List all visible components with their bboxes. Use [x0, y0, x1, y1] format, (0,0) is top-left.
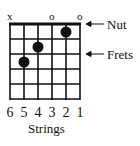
dot-string4-fret2: [33, 42, 44, 53]
dot-string5-fret3: [19, 57, 30, 68]
finger-dots: [19, 27, 72, 68]
string6-muted-marker: x: [7, 11, 13, 22]
string1-open-marker: o: [77, 11, 83, 22]
frets-label: Frets: [107, 48, 133, 61]
frets: [10, 39, 80, 99]
string-number-2: 2: [60, 106, 72, 120]
string-number-6: 6: [4, 106, 16, 120]
string-number-3: 3: [46, 106, 58, 120]
arrows: [86, 22, 104, 57]
string-number-1: 1: [74, 106, 86, 120]
dot-string2-fret1: [61, 27, 72, 38]
strings-axis-label: Strings: [28, 122, 65, 135]
string-number-5: 5: [18, 106, 30, 120]
nut-label: Nut: [107, 18, 127, 31]
string3-open-marker: o: [49, 11, 55, 22]
string-number-4: 4: [32, 106, 44, 120]
